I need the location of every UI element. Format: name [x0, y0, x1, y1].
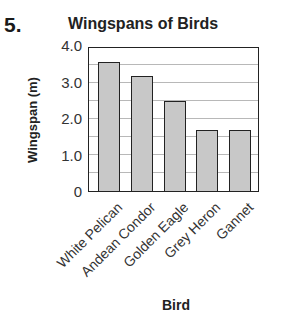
bar-golden-eagle — [164, 101, 186, 191]
y-tick-label: 4.0 — [42, 38, 82, 53]
bar-gannet — [229, 130, 251, 191]
bar-grey-heron — [196, 130, 218, 191]
plot-area — [88, 47, 259, 192]
x-axis-label: Bird — [162, 297, 190, 313]
question-number: 5. — [4, 13, 22, 37]
bar-white-pelican — [98, 62, 120, 191]
y-tick-label: 1.0 — [42, 148, 82, 163]
chart-title: Wingspans of Birds — [68, 15, 218, 33]
y-tick-label: 3.0 — [42, 75, 82, 90]
y-tick-label: 2.0 — [42, 111, 82, 126]
y-axis-label: Wingspan (m) — [25, 77, 40, 163]
y-tick-label: 0 — [42, 184, 82, 199]
bar-andean-condor — [131, 76, 153, 191]
